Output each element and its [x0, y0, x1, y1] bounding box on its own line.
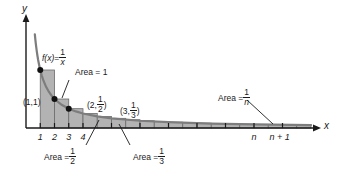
x-tick-label: n + 1 [270, 133, 290, 142]
annotation-area-one-half: Area =12 [44, 147, 76, 165]
area-rectangle [55, 99, 69, 128]
data-point [52, 96, 58, 102]
area-n-fraction: 1n [243, 88, 250, 106]
area-rectangles [40, 70, 311, 128]
point-2-open: (2, [87, 100, 97, 110]
y-axis-label: y [22, 4, 27, 14]
x-tick-label: 3 [66, 133, 71, 142]
x-tick-label: n [252, 133, 257, 142]
area-third-denominator: 3 [158, 157, 165, 166]
function-label: f(x)=1x [42, 48, 66, 66]
data-point [66, 106, 72, 112]
leader-area1 [62, 80, 69, 98]
function-curve [35, 34, 311, 125]
annotation-area-one-over-n: Area =1n [218, 88, 250, 106]
x-tick-label: 1 [38, 133, 43, 142]
point-2-denominator: 2 [97, 105, 104, 114]
point-3-fraction: 13 [130, 101, 137, 119]
point-2-fraction: 12 [97, 95, 104, 113]
x-axis-arrow [313, 125, 321, 132]
area-half-fraction: 12 [69, 147, 76, 165]
point-3-close: ) [137, 106, 140, 116]
function-label-fraction: 1x [59, 48, 66, 66]
point-label-2-half: (2,12) [87, 95, 107, 113]
function-label-denominator: x [59, 58, 66, 67]
point-2-close: ) [104, 100, 107, 110]
area-n-prefix: Area = [218, 93, 243, 103]
x-tick-label: 4 [81, 133, 86, 142]
point-3-open: (3, [120, 106, 130, 116]
annotation-area-one-third: Area =13 [133, 147, 165, 165]
x-tick-label: 2 [52, 133, 57, 142]
point-3-denominator: 3 [130, 111, 137, 120]
annotation-area-1: Area = 1 [75, 68, 107, 77]
x-axis-label: x [324, 121, 329, 131]
point-label-3-third: (3,13) [120, 101, 140, 119]
function-label-prefix: f(x) [42, 53, 54, 63]
area-n-denominator: n [243, 98, 250, 107]
leader-area-n [247, 100, 273, 124]
area-half-denominator: 2 [69, 157, 76, 166]
point-label-1-1: (1,1) [23, 98, 40, 107]
area-third-prefix: Area = [133, 152, 158, 162]
data-point [37, 67, 43, 73]
y-axis-arrow [23, 14, 30, 22]
area-half-prefix: Area = [44, 152, 69, 162]
area-third-fraction: 13 [158, 147, 165, 165]
